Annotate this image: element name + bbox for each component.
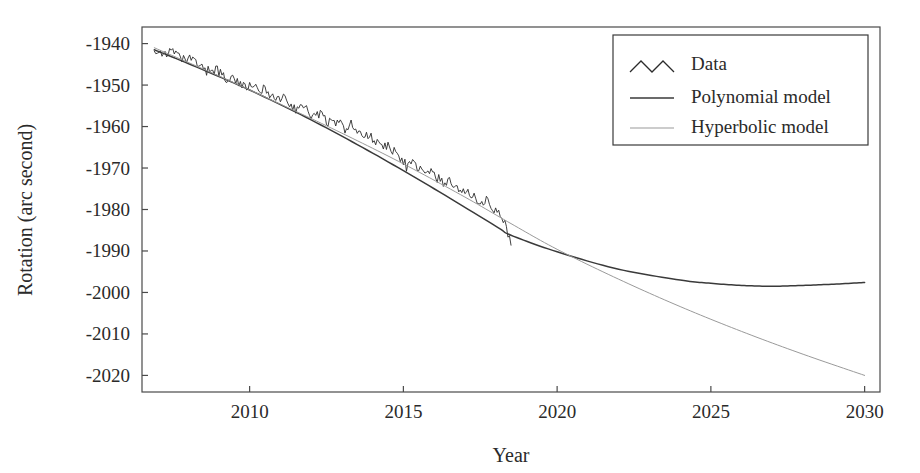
y-tick-label: -1990 xyxy=(86,240,130,261)
x-tick-label: 2030 xyxy=(846,401,884,422)
x-axis-title: Year xyxy=(493,444,530,466)
y-tick-label: -1950 xyxy=(86,75,130,96)
y-axis-title: Rotation (arc second) xyxy=(14,124,37,296)
y-tick-label: -1960 xyxy=(86,116,130,137)
chart-legend: DataPolynomial modelHyperbolic model xyxy=(613,35,868,145)
y-tick-label: -1980 xyxy=(86,199,130,220)
legend-label: Data xyxy=(691,53,727,74)
y-tick-label: -1970 xyxy=(86,158,130,179)
chart-figure: -1940-1950-1960-1970-1980-1990-2000-2010… xyxy=(0,0,920,473)
y-tick-label: -2010 xyxy=(86,323,130,344)
x-tick-label: 2020 xyxy=(538,401,576,422)
x-tick-label: 2015 xyxy=(384,401,422,422)
x-tick-label: 2010 xyxy=(231,401,269,422)
legend-label: Polynomial model xyxy=(691,86,831,107)
y-tick-label: -2020 xyxy=(86,365,130,386)
legend-label: Hyperbolic model xyxy=(691,116,829,137)
rotation-vs-year-line-chart: -1940-1950-1960-1970-1980-1990-2000-2010… xyxy=(0,0,920,473)
y-tick-label: -2000 xyxy=(86,282,130,303)
x-tick-label: 2025 xyxy=(692,401,730,422)
y-tick-label: -1940 xyxy=(86,33,130,54)
